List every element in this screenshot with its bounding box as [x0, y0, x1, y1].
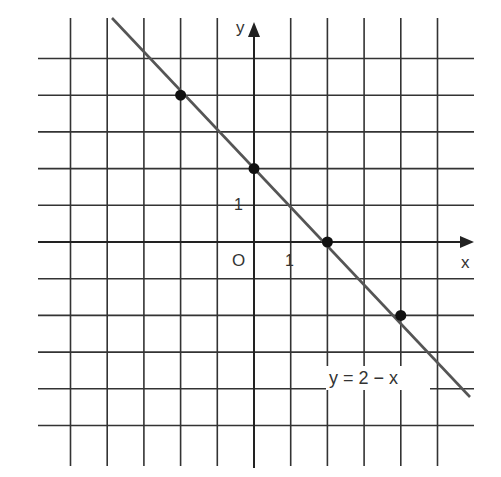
- plotted-point: [322, 237, 333, 248]
- y-axis-label: y: [236, 18, 245, 37]
- plotted-point: [249, 163, 260, 174]
- plotted-point: [395, 310, 406, 321]
- x-axis-arrow-icon: [460, 236, 474, 248]
- coordinate-plane: y x O 1 1 y = 2 − x: [0, 0, 501, 477]
- equation-label: y = 2 − x: [329, 368, 398, 388]
- x-axis-label: x: [461, 253, 470, 272]
- origin-label: O: [232, 251, 245, 270]
- plotted-point: [175, 90, 186, 101]
- x-unit-tick-label: 1: [285, 252, 294, 269]
- y-unit-tick-label: 1: [234, 196, 243, 213]
- y-axis-arrow-icon: [248, 22, 260, 37]
